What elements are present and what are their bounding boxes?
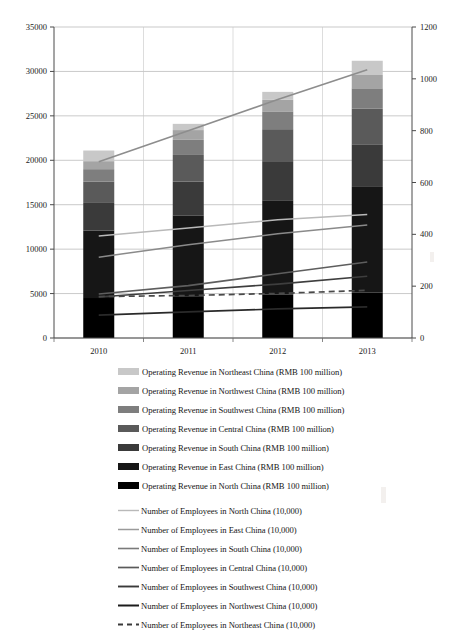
legend-item-label: Number of Employees in North China (10,0… (141, 506, 302, 516)
y-tick-label-left: 5000 (30, 289, 47, 299)
bar-segment (262, 111, 293, 129)
bar-segment (83, 169, 114, 181)
y-tick-label-right: 400 (420, 229, 433, 239)
legend-color-swatch (118, 444, 139, 451)
legend-item-label: Operating Revenue in Central China (RMB … (142, 424, 334, 434)
x-tick-label: 2010 (90, 346, 107, 356)
legend-item-label: Operating Revenue in Northwest China (RM… (142, 386, 344, 396)
bar-segment (262, 100, 293, 112)
legend-color-swatch (118, 406, 139, 413)
legend-item[interactable]: Number of Employees in Northeast China (… (118, 615, 469, 634)
bar-segment (352, 75, 383, 88)
chart-figure: 0500010000150002000025000300003500002004… (0, 0, 469, 360)
y-tick-label-left: 20000 (26, 155, 47, 165)
y-tick-label-right: 0 (420, 333, 424, 343)
legend-item[interactable]: Operating Revenue in Northeast China (RM… (118, 362, 469, 381)
bar-segment (262, 200, 293, 294)
legend-item-label: Number of Employees in South China (10,0… (141, 544, 302, 554)
legend-item-label: Number of Employees in Northeast China (… (141, 620, 315, 630)
y-tick-label-left: 25000 (26, 111, 47, 121)
legend-item-label: Operating Revenue in Southwest China (RM… (142, 405, 344, 415)
legend-color-swatch (118, 482, 139, 489)
legend-item[interactable]: Number of Employees in East China (10,00… (118, 520, 469, 539)
bar-segment (352, 109, 383, 145)
y-tick-label-right: 200 (420, 281, 433, 291)
legend-line-sample (118, 563, 139, 572)
legend-item-label: Operating Revenue in East China (RMB 100… (142, 462, 324, 472)
scan-artifact (430, 252, 434, 262)
x-tick-label: 2013 (359, 346, 376, 356)
legend-item[interactable]: Operating Revenue in North China (RMB 10… (118, 476, 469, 495)
y-tick-label-left: 15000 (26, 200, 47, 210)
bar-segment (352, 293, 383, 338)
legend-line-sample (118, 544, 139, 553)
y-tick-label-left: 35000 (26, 22, 47, 32)
legend-line-sample (118, 582, 139, 591)
y-tick-label-right: 600 (420, 178, 433, 188)
legend-item[interactable]: Number of Employees in South China (10,0… (118, 539, 469, 558)
bar-segment (352, 88, 383, 108)
legend-item[interactable]: Number of Employees in Central China (10… (118, 558, 469, 577)
legend-item-label: Number of Employees in Southwest China (… (141, 582, 317, 592)
legend-item-label: Operating Revenue in Northeast China (RM… (142, 367, 342, 377)
legend-item[interactable]: Operating Revenue in Northwest China (RM… (118, 381, 469, 400)
scan-artifact (381, 487, 386, 503)
bar-segment (173, 296, 204, 338)
chart-legend: Operating Revenue in Northeast China (RM… (0, 360, 469, 604)
legend-item[interactable]: Operating Revenue in Southwest China (RM… (118, 400, 469, 419)
bar-segment (83, 298, 114, 338)
x-tick-label: 2011 (180, 346, 197, 356)
legend-item-label: Operating Revenue in North China (RMB 10… (142, 481, 329, 491)
bar-segment (83, 161, 114, 169)
legend-line-sample (118, 601, 139, 610)
legend-item[interactable]: Number of Employees in Southwest China (… (118, 577, 469, 596)
legend-item[interactable]: Operating Revenue in East China (RMB 100… (118, 457, 469, 476)
legend-line-sample (118, 506, 139, 515)
y-tick-label-left: 30000 (26, 66, 47, 76)
legend-item-label: Number of Employees in East China (10,00… (141, 525, 297, 535)
y-tick-label-right: 800 (420, 126, 433, 136)
legend-line-sample (118, 525, 139, 534)
bar-segment (173, 155, 204, 182)
legend-item-label: Number of Employees in Northwest China (… (141, 601, 317, 611)
bar-segment (83, 230, 114, 298)
bar-segment (352, 144, 383, 187)
bar-segment (83, 182, 114, 203)
legend-item[interactable]: Number of Employees in North China (10,0… (118, 501, 469, 520)
legend-color-swatch (118, 463, 139, 470)
y-tick-label-right: 1200 (420, 22, 437, 32)
legend-item-label: Number of Employees in Central China (10… (141, 563, 307, 573)
bar-segment (173, 182, 204, 216)
legend-color-swatch (118, 387, 139, 394)
bar-segment (262, 294, 293, 338)
legend-item[interactable]: Operating Revenue in South China (RMB 10… (118, 438, 469, 457)
bar-segment (173, 140, 204, 155)
bar-segment (262, 129, 293, 161)
bar-segment (262, 161, 293, 200)
bar-segment (83, 151, 114, 162)
y-tick-label-left: 10000 (26, 244, 47, 254)
bar-segment (83, 203, 114, 231)
legend-item-label: Operating Revenue in South China (RMB 10… (142, 443, 329, 453)
y-tick-label-left: 0 (43, 333, 47, 343)
legend-line-sample (118, 620, 139, 629)
x-tick-label: 2012 (269, 346, 286, 356)
legend-color-swatch (118, 425, 139, 432)
legend-item[interactable]: Number of Employees in Northwest China (… (118, 596, 469, 615)
y-tick-label-right: 1000 (420, 74, 437, 84)
legend-color-swatch (118, 368, 139, 375)
legend-item[interactable]: Operating Revenue in Central China (RMB … (118, 419, 469, 438)
stacked-bar-and-line-chart: 0500010000150002000025000300003500002004… (0, 0, 469, 360)
